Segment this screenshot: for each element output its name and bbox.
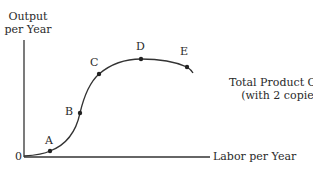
origin-label: 0 bbox=[15, 150, 22, 163]
y-axis-label-line2: per Year bbox=[5, 23, 52, 36]
point-e-marker bbox=[185, 65, 189, 69]
point-d-label: D bbox=[136, 40, 145, 53]
point-a-label: A bbox=[45, 134, 53, 147]
point-d-marker bbox=[139, 57, 143, 61]
y-axis-label-line1: Output bbox=[5, 10, 52, 23]
point-c-label: C bbox=[90, 56, 98, 69]
curve-label-line1: Total Product Curve bbox=[229, 76, 313, 89]
point-c-marker bbox=[97, 72, 101, 76]
point-b-marker bbox=[78, 111, 82, 115]
point-e-label: E bbox=[180, 45, 188, 58]
curve-label: Total Product Curve (with 2 copiers) bbox=[229, 76, 313, 102]
curve-label-line2: (with 2 copiers) bbox=[229, 89, 313, 102]
y-axis-label: Output per Year bbox=[5, 10, 52, 36]
point-a-marker bbox=[48, 149, 52, 153]
x-axis-label: Labor per Year bbox=[213, 150, 296, 163]
point-b-label: B bbox=[65, 105, 73, 118]
